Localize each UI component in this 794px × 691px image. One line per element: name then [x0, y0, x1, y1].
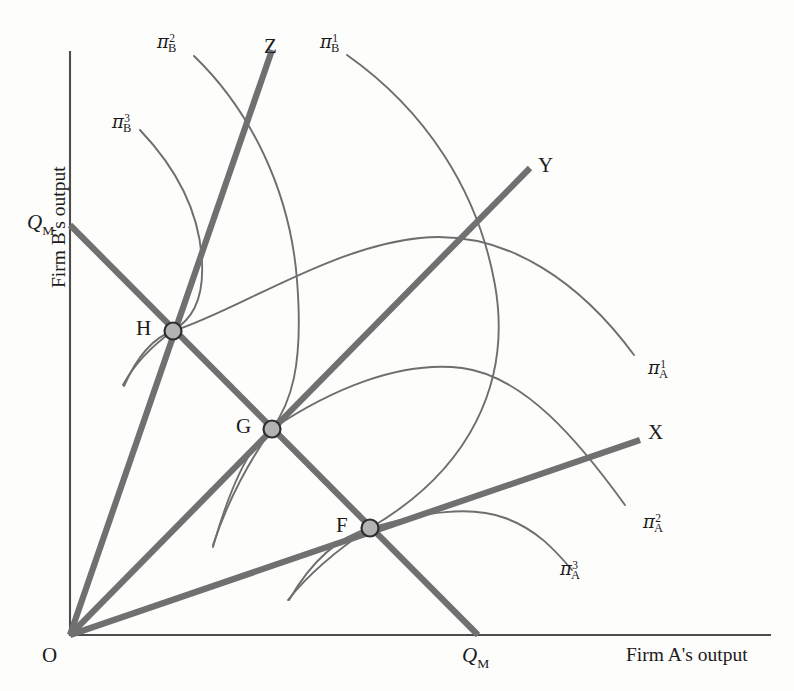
axes-group — [70, 52, 770, 635]
pi-subscript: A — [659, 367, 668, 381]
pi-subscript: B — [168, 41, 176, 55]
isoprofit-label-pi-a-3: π3A — [560, 559, 587, 582]
q-m-x-subscript: M — [477, 656, 489, 671]
pi-subscript: B — [331, 41, 339, 55]
x-axis-label: Firm A's output — [626, 645, 748, 665]
reaction-lines-group — [70, 50, 640, 635]
ray-line-z — [70, 50, 272, 635]
equilibrium-dot-g[interactable] — [264, 421, 281, 438]
cournot-isoprofit-figure: Firm B's output Firm A's output O QM QM … — [0, 0, 794, 691]
line-label-y: Y — [538, 155, 553, 176]
q-m-y-glyph: Q — [27, 210, 42, 234]
isoprofit-label-pi-a-2: π2A — [643, 512, 670, 535]
q-m-label-y-axis: QM — [27, 212, 54, 236]
isoprofit-label-pi-b-1: π1B — [320, 32, 346, 55]
isoprofit-label-pi-b-2: π2B — [157, 32, 183, 55]
point-label-g: G — [236, 416, 251, 437]
line-label-x: X — [648, 422, 663, 443]
pi-subscript: A — [654, 521, 663, 535]
ray-line-x — [70, 440, 640, 635]
isoprofit-curve-pi-b-1 — [288, 55, 499, 600]
point-label-h: H — [136, 318, 151, 339]
q-m-y-subscript: M — [42, 223, 54, 238]
isoprofit-label-pi-b-3: π3B — [112, 112, 138, 135]
origin-label: O — [42, 645, 57, 666]
diagram-canvas — [0, 0, 794, 691]
q-m-label-x-axis: QM — [462, 645, 489, 669]
isoprofit-curve-pi-a-2 — [213, 367, 625, 547]
q-m-x-glyph: Q — [462, 643, 477, 667]
pi-subscript: B — [123, 121, 131, 135]
equilibrium-dot-h[interactable] — [165, 323, 182, 340]
ray-line-y — [70, 168, 530, 635]
isoprofit-label-pi-a-1: π1A — [648, 358, 675, 381]
pi-subscript: A — [571, 568, 580, 582]
line-label-z: Z — [264, 36, 277, 57]
equilibrium-dot-f[interactable] — [362, 520, 379, 537]
point-label-f: F — [336, 515, 348, 536]
